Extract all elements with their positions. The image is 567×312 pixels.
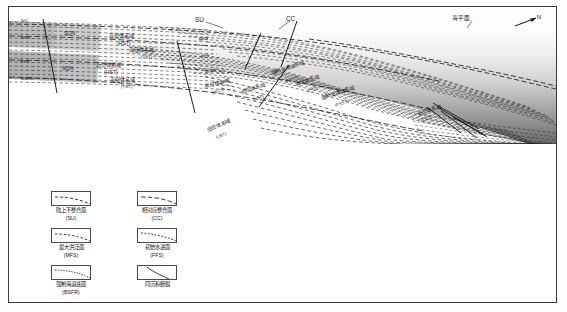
legend-swatch-ffs [137, 228, 177, 243]
legend-swatch-cc [137, 191, 177, 206]
label-hst-lower-cn: 高位体系域 [96, 62, 121, 69]
legend-swatch-mfs [51, 228, 91, 243]
legend-item-su: 陆上不整合面 (SU) [28, 191, 114, 225]
dashed-surface-su-icon [52, 192, 91, 206]
growth-fault-icon [138, 266, 177, 280]
north-arrow: N [514, 16, 540, 28]
legend-abbr-bsfr: (BSFR) [62, 289, 79, 296]
legend-label-bsfr: 强制海退底面 [56, 281, 86, 288]
legend-item-bsfr: 强制海退底面 (BSFR) [28, 265, 114, 299]
dashed-surface-mfs-icon [52, 229, 91, 243]
legend-label-growth-fault: 同沉积断裂 [145, 281, 170, 288]
dashed-surface-ffs-icon [138, 229, 177, 243]
legend-abbr-su: (SU) [66, 215, 77, 222]
legend-item-mfs: 最大洪泛面 (MFS) [28, 228, 114, 262]
legend-item-ffs: 初始水进面 (FFS) [114, 228, 200, 262]
label-tst-upper-cn: 海侵体系域 [129, 47, 154, 54]
label-su: SU [195, 16, 204, 24]
legend-label-mfs: 最大洪泛面 [59, 244, 84, 251]
label-sqn-lower: SQN [62, 65, 73, 72]
north-label: N [537, 14, 541, 20]
legend-swatch-su [51, 191, 91, 206]
label-cc: CC [286, 15, 295, 23]
clinoforms-set-1 [159, 27, 556, 125]
label-hst-upper-cn: 高位体系域 [109, 33, 134, 40]
label-hst-upper-ab: (HST) [117, 40, 131, 47]
label-tst-lower-ab: (TST) [121, 84, 132, 90]
label-tst-lower-cn: 海侵体系域 [110, 77, 135, 84]
label-ffs-a: FFS [201, 53, 210, 60]
legend-item-growth-fault: 同沉积断裂 [114, 265, 200, 299]
label-sea-level: 海平面 [452, 15, 470, 22]
cross-section-panel: SU CC 海平面 N SU MFS FFS BSFR SQN SQN 高位体系… [9, 7, 556, 144]
legend-label-cc: 相对应整合面 [142, 207, 172, 214]
label-edge-bsfr: BSFR [21, 76, 33, 82]
label-sqn-upper: SQN [64, 30, 75, 37]
dashed-surface-cc-icon [138, 192, 177, 206]
legend-abbr-cc: (CC) [152, 215, 163, 222]
legend: 陆上不整合面 (SU) 相对应整合面 (CC) 最大洪泛面 (MFS) [28, 191, 200, 299]
strata-clinoforms [9, 7, 556, 144]
dashed-surface-bsfr-icon [52, 266, 91, 280]
label-edge-mfs: MFS [21, 35, 30, 41]
figure-root: SU CC 海平面 N SU MFS FFS BSFR SQN SQN 高位体系… [0, 0, 567, 312]
label-edge-ffs: FFS [21, 59, 29, 65]
legend-item-cc: 相对应整合面 (CC) [114, 191, 200, 225]
legend-abbr-ffs: (FFS) [150, 252, 163, 259]
label-tst-upper-ab: (TST) [141, 54, 152, 60]
label-hst-lower-ab: (HST) [104, 69, 118, 76]
legend-label-ffs: 初始水进面 [145, 244, 170, 251]
leader-lines [206, 21, 472, 29]
label-edge-su: SU [21, 18, 27, 24]
legend-swatch-bsfr [51, 265, 91, 280]
legend-label-su: 陆上不整合面 [56, 207, 86, 214]
legend-swatch-growth-fault [137, 265, 177, 280]
legend-abbr-mfs: (MFS) [64, 252, 78, 259]
